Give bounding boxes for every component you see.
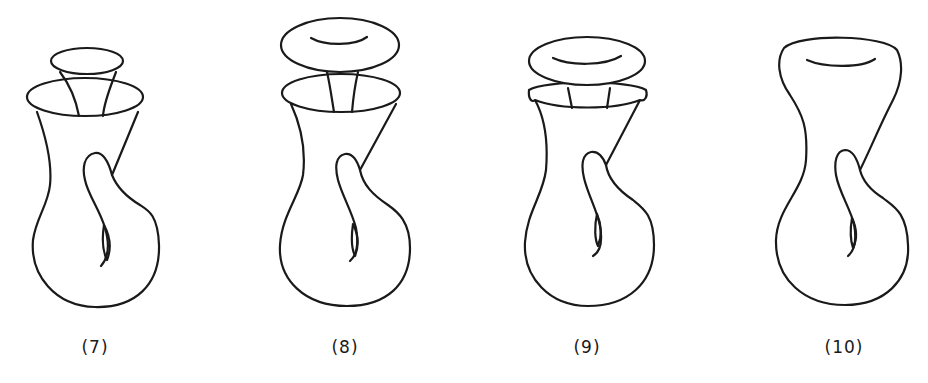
figure-7-rim xyxy=(27,78,143,116)
figure-9-body xyxy=(525,100,654,306)
figure-8 xyxy=(280,18,410,306)
figure-7-body xyxy=(33,112,159,307)
figure-9 xyxy=(525,37,654,306)
figure-sequence xyxy=(0,0,928,383)
figure-8-label: (8) xyxy=(331,337,358,357)
figure-7 xyxy=(27,48,159,307)
figure-9-slit xyxy=(595,214,601,246)
figure-8-rim xyxy=(282,74,400,112)
figure-8-cap xyxy=(281,18,399,72)
figure-10 xyxy=(776,38,908,305)
figure-10-top-crease xyxy=(807,59,875,66)
figure-9-ring xyxy=(529,83,647,108)
figure-7-handle xyxy=(84,153,112,266)
figure-10-slit xyxy=(851,218,856,248)
figure-8-body xyxy=(280,104,410,306)
figure-8-handle xyxy=(336,154,360,261)
figure-10-label: (10) xyxy=(825,337,864,357)
figure-7-funnel-top xyxy=(51,48,123,74)
figure-9-label: (9) xyxy=(573,337,600,357)
figure-9-cap xyxy=(529,37,645,85)
figure-7-label: (7) xyxy=(81,337,108,357)
figure-10-body xyxy=(776,38,908,305)
figure-9-handle xyxy=(582,152,606,256)
